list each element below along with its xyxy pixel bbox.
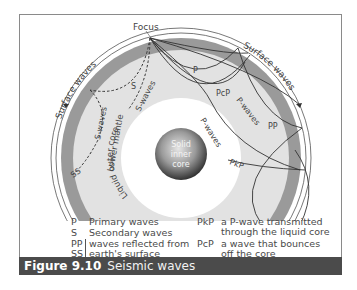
legend-text-p: Primary waves — [89, 217, 159, 228]
pp-label: PP — [268, 122, 278, 131]
figure-number: Figure 9.10 — [24, 259, 101, 273]
inner-core-label-2: inner — [171, 150, 192, 159]
inner-core-label-1: Solid — [171, 140, 191, 149]
focus-label: Focus — [133, 22, 159, 32]
s-label: S — [131, 82, 136, 91]
inner-core-label-3: core — [172, 160, 189, 169]
legend-key-pkp: PkP — [197, 217, 214, 228]
legend-text-pkp-2: through the liquid core — [221, 227, 330, 238]
figure-caption: Figure 9.10Seismic waves — [19, 257, 342, 275]
legend-left: P Primary waves S Secondary waves PP wav… — [71, 217, 191, 259]
legend-key-s: S — [71, 228, 77, 239]
figure-title: Seismic waves — [107, 259, 195, 273]
legend-key-p: P — [71, 217, 77, 228]
legend-key-pcp: PcP — [197, 239, 214, 250]
legend-bracket — [85, 239, 86, 259]
p-label: P — [193, 66, 198, 75]
pcp-label: PcP — [216, 89, 230, 98]
legend-text-s: Secondary waves — [89, 228, 172, 239]
legend-right: PkP a P-wave transmitted through the liq… — [197, 217, 337, 259]
